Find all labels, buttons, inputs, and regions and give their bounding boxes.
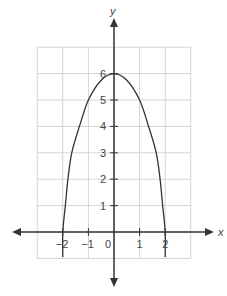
ticks: −2−1012123456 — [56, 68, 169, 250]
x-tick-label: 1 — [137, 238, 143, 250]
y-axis-label: y — [109, 5, 117, 17]
x-tick-label: −1 — [81, 238, 94, 250]
y-tick-label: 5 — [100, 94, 106, 106]
y-tick-label: 4 — [100, 120, 106, 132]
y-axis-arrow-down-icon — [110, 278, 118, 287]
graph: −2−1012123456 y x — [0, 0, 227, 296]
x-axis-arrow-left-icon — [12, 228, 21, 236]
x-axis-label: x — [217, 226, 224, 238]
y-tick-label: 1 — [100, 200, 106, 212]
y-tick-label: 2 — [100, 173, 106, 185]
y-tick-label: 6 — [100, 68, 106, 80]
x-tick-label: −2 — [56, 238, 69, 250]
x-tick-label: 0 — [105, 238, 111, 250]
y-tick-label: 3 — [100, 147, 106, 159]
x-axis-arrow-right-icon — [205, 228, 214, 236]
x-tick-label: 2 — [162, 238, 168, 250]
y-axis-arrow-up-icon — [110, 18, 118, 27]
